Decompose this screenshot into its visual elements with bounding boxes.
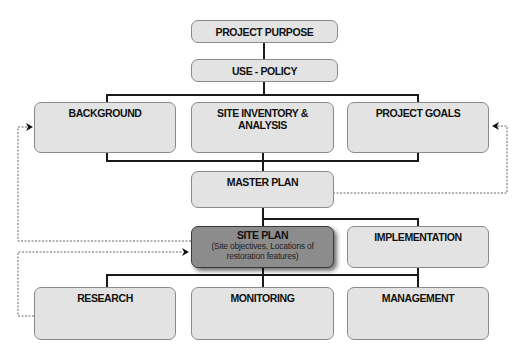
node-site-inventory: SITE INVENTORY & ANALYSIS: [191, 102, 334, 153]
node-research: RESEARCH: [34, 287, 176, 340]
node-label: PROJECT GOALS: [348, 107, 488, 119]
node-label: BACKGROUND: [35, 107, 175, 119]
node-label: PROJECT PURPOSE: [192, 26, 337, 38]
node-label: RESEARCH: [35, 292, 175, 304]
node-label: MONITORING: [192, 292, 333, 304]
node-management: MANAGEMENT: [347, 287, 489, 340]
node-label: SITE PLAN: [192, 229, 333, 241]
node-master-plan: MASTER PLAN: [191, 171, 334, 208]
node-project-goals: PROJECT GOALS: [347, 102, 489, 153]
node-project-purpose: PROJECT PURPOSE: [191, 20, 338, 43]
node-label: SITE INVENTORY & ANALYSIS: [192, 107, 333, 131]
node-site-plan: SITE PLAN (Site objectives, Locations of…: [191, 226, 334, 268]
node-label: USE - POLICY: [192, 65, 337, 77]
node-implementation: IMPLEMENTATION: [347, 226, 489, 268]
node-label: IMPLEMENTATION: [348, 231, 488, 243]
node-label: MASTER PLAN: [192, 176, 333, 188]
node-sublabel: (Site objectives, Locations of restorati…: [192, 241, 333, 261]
node-monitoring: MONITORING: [191, 287, 334, 340]
node-label: MANAGEMENT: [348, 292, 488, 304]
node-background: BACKGROUND: [34, 102, 176, 153]
node-use-policy: USE - POLICY: [191, 59, 338, 82]
